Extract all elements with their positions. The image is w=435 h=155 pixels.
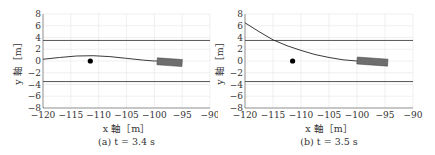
subplot-b: −120−115−110−105−100−95−9086420−2−4−6−8x… <box>202 0 420 155</box>
y-tick-label: 0 <box>237 56 243 66</box>
vehicle-rect <box>357 57 388 66</box>
y-tick-label: 4 <box>35 33 41 43</box>
x-tick-label: −115 <box>261 110 286 120</box>
x-tick-label: −100 <box>345 110 370 120</box>
y-tick-label: 0 <box>35 56 41 66</box>
y-tick-label: 2 <box>35 44 41 54</box>
y-tick-label: −2 <box>28 68 41 78</box>
plot-a-svg: −120−115−110−105−100−95−9086420−2−4−6−8x… <box>0 0 218 155</box>
y-tick-label: 8 <box>237 9 243 19</box>
x-tick-label: −95 <box>173 110 192 120</box>
subplot-a: −120−115−110−105−100−95−9086420−2−4−6−8x… <box>0 0 218 155</box>
plot-b-svg: −120−115−110−105−100−95−9086420−2−4−6−8x… <box>202 0 435 155</box>
y-tick-label: −6 <box>28 91 42 101</box>
y-tick-label: 6 <box>237 21 243 31</box>
subplot-caption: (a) t = 3.4 s <box>98 136 155 147</box>
y-tick-label: −8 <box>28 103 42 113</box>
x-tick-label: −115 <box>58 110 83 120</box>
trajectory-line <box>43 56 165 61</box>
x-tick-label: −95 <box>376 110 395 120</box>
y-tick-label: −2 <box>230 68 243 78</box>
y-tick-label: 2 <box>237 44 243 54</box>
x-axis-label: x 軸［m］ <box>305 123 352 134</box>
x-tick-label: −105 <box>114 110 139 120</box>
x-tick-label: −110 <box>289 110 314 120</box>
y-tick-label: −4 <box>230 80 244 90</box>
y-tick-label: −4 <box>28 80 42 90</box>
obstacle-dot <box>290 58 295 63</box>
y-tick-label: −6 <box>230 91 244 101</box>
x-axis-label: x 軸［m］ <box>103 123 150 134</box>
x-tick-label: −105 <box>317 110 342 120</box>
x-tick-label: −100 <box>142 110 167 120</box>
trajectory-line <box>245 23 368 61</box>
x-tick-label: −110 <box>86 110 111 120</box>
subplot-caption: (b) t = 3.5 s <box>300 136 357 147</box>
y-axis-label: y 軸［m］ <box>12 37 23 85</box>
x-tick-label: −90 <box>404 110 423 120</box>
y-tick-label: −8 <box>230 103 244 113</box>
y-tick-label: 8 <box>35 9 41 19</box>
obstacle-dot <box>88 58 93 63</box>
y-axis-label: y 軸［m］ <box>214 37 225 85</box>
y-tick-label: 6 <box>35 21 41 31</box>
vehicle-rect <box>157 58 182 67</box>
y-tick-label: 4 <box>237 33 243 43</box>
